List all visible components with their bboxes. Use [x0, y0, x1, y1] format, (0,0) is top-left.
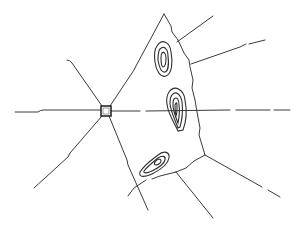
node-rays	[34, 60, 148, 210]
contour-cluster-middle	[167, 88, 186, 131]
contour-cluster-lower	[140, 152, 169, 176]
contour-cluster-upper	[154, 42, 172, 77]
square-node	[101, 106, 111, 116]
cell-boundary	[110, 14, 205, 196]
voronoi-diagram	[0, 0, 301, 225]
outer-rays	[176, 16, 280, 218]
horizontal-axis-line	[15, 110, 290, 112]
diagram-canvas	[0, 0, 301, 225]
